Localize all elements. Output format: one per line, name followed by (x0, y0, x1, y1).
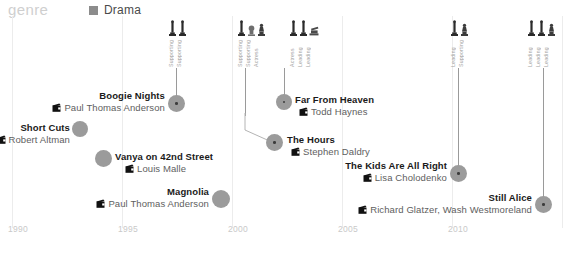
clapperboard-icon (358, 205, 367, 214)
statuette-icons (450, 20, 469, 36)
director-row: Louis Malle (115, 163, 213, 174)
marker-vanya-on-42nd-street[interactable] (95, 150, 112, 167)
tick-label-2000: 2000 (228, 224, 248, 234)
statuette-icons (289, 20, 319, 36)
director-row: Robert Altman (0, 134, 70, 145)
film-entry-still-alice[interactable]: Still Alice Richard Glatzer, Wash Westmo… (300, 192, 532, 215)
genre-label: genre (8, 1, 48, 18)
award-cluster-2001[interactable]: Supporting Supporting Actress (237, 20, 266, 67)
award-labels: Actress Leading Leading (289, 37, 319, 67)
oscar-statuette-icon (460, 20, 469, 36)
stem-still-alice (543, 68, 544, 203)
award-cluster-kids-are-all-right[interactable]: Leading Supporting (450, 20, 469, 67)
oscar-statuette-icon (178, 20, 187, 36)
award-label: Leading (305, 37, 312, 67)
tick-label-1995: 1995 (118, 224, 138, 234)
award-label: Supporting (245, 37, 252, 67)
award-label: Leading (527, 37, 534, 67)
timeline-chart: genre Drama 1990 1995 2000 2005 2010 (0, 0, 572, 255)
film-title: Short Cuts (0, 122, 70, 133)
marker-magnolia[interactable] (212, 190, 230, 208)
marker-the-hours[interactable] (266, 134, 283, 151)
oscar-statuette-icon (257, 20, 266, 36)
oscar-statuette-icon (547, 20, 556, 36)
award-label: Supporting (237, 37, 244, 67)
oscar-statuette-icon (168, 20, 177, 36)
director-name: Lisa Cholodenko (375, 172, 447, 183)
film-entry-magnolia[interactable]: Magnolia Paul Thomas Anderson (0, 186, 209, 209)
clapperboard-icon (0, 135, 6, 144)
film-title: Boogie Nights (0, 90, 165, 101)
tick-label-2010: 2010 (448, 224, 468, 234)
oscar-statuette-icon (289, 20, 298, 36)
award-cluster-boogie-nights[interactable]: Supporting Supporting (168, 20, 187, 67)
statuette-icons (237, 20, 266, 36)
stem-kids-are-all-right (458, 68, 459, 173)
film-title: Magnolia (0, 186, 209, 197)
award-label: Leading (543, 37, 550, 67)
director-name: Louis Malle (137, 163, 186, 174)
tick-label-2005: 2005 (338, 224, 358, 234)
film-entry-the-hours[interactable]: The Hours Stephen Daldry (287, 134, 370, 157)
film-entry-vanya-on-42nd-street[interactable]: Vanya on 42nd Street Louis Malle (115, 151, 213, 174)
award-cluster-far-from-heaven[interactable]: Actress Leading Leading (289, 20, 319, 67)
award-label: Actress (253, 37, 260, 67)
director-name: Paul Thomas Anderson (108, 198, 209, 209)
marker-kids-are-all-right[interactable] (450, 165, 467, 182)
award-label: Leading (450, 37, 457, 67)
award-label: Supporting (168, 37, 175, 67)
award-label: Supporting (458, 37, 465, 67)
film-title: Still Alice (300, 192, 532, 203)
statuette-icons (168, 20, 187, 36)
film-title: The Hours (287, 134, 370, 145)
award-label: Supporting (176, 37, 183, 67)
award-label: Leading (535, 37, 542, 67)
clapperboard-icon (52, 103, 61, 112)
director-row: Paul Thomas Anderson (0, 198, 209, 209)
film-entry-far-from-heaven[interactable]: Far From Heaven Todd Haynes (295, 94, 374, 117)
legend-label-drama: Drama (104, 3, 141, 17)
tick-label-1990: 1990 (8, 224, 28, 234)
statuette-icons (527, 20, 556, 36)
director-row: Lisa Cholodenko (240, 172, 447, 183)
award-labels: Supporting Supporting (168, 37, 187, 67)
award-labels: Leading Leading Leading (527, 37, 556, 67)
award-label: Actress (289, 37, 296, 67)
director-row: Stephen Daldry (287, 146, 370, 157)
gridline-2000 (232, 16, 233, 228)
legend[interactable]: Drama (89, 3, 141, 17)
marker-short-cuts[interactable] (72, 121, 88, 137)
oscar-statuette-icon (247, 20, 256, 36)
award-labels: Supporting Supporting Actress (237, 37, 266, 67)
film-title: The Kids Are All Right (240, 160, 447, 171)
director-name: Todd Haynes (311, 106, 368, 117)
marker-boogie-nights[interactable] (168, 95, 185, 112)
marker-far-from-heaven[interactable] (276, 94, 292, 110)
director-row: Richard Glatzer, Wash Westmoreland (300, 204, 532, 215)
oscar-statuette-icon (237, 20, 246, 36)
director-name: Richard Glatzer, Wash Westmoreland (370, 204, 532, 215)
film-entry-boogie-nights[interactable]: Boogie Nights Paul Thomas Anderson (0, 90, 165, 113)
director-row: Todd Haynes (295, 106, 374, 117)
oscar-statuette-icon (537, 20, 546, 36)
stem-2001 (245, 68, 246, 116)
marker-still-alice[interactable] (535, 196, 552, 213)
clapperboard-icon (96, 199, 105, 208)
clapperboard-icon (299, 107, 308, 116)
director-row: Paul Thomas Anderson (0, 102, 165, 113)
clapperboard-icon (291, 147, 300, 156)
director-name: Paul Thomas Anderson (64, 102, 165, 113)
director-name: Stephen Daldry (303, 146, 370, 157)
gridline-2015 (562, 16, 563, 228)
clapperboard-icon (363, 173, 372, 182)
oscar-statuette-icon (309, 20, 319, 36)
film-entry-kids-are-all-right[interactable]: The Kids Are All Right Lisa Cholodenko (240, 160, 447, 183)
oscar-statuette-icon (450, 20, 459, 36)
oscar-statuette-icon (527, 20, 536, 36)
film-entry-short-cuts[interactable]: Short Cuts Robert Altman (0, 122, 70, 145)
award-label: Leading (297, 37, 304, 67)
clapperboard-icon (125, 164, 134, 173)
director-name: Robert Altman (9, 134, 71, 145)
film-title: Vanya on 42nd Street (115, 151, 213, 162)
award-cluster-still-alice[interactable]: Leading Leading Leading (527, 20, 556, 67)
